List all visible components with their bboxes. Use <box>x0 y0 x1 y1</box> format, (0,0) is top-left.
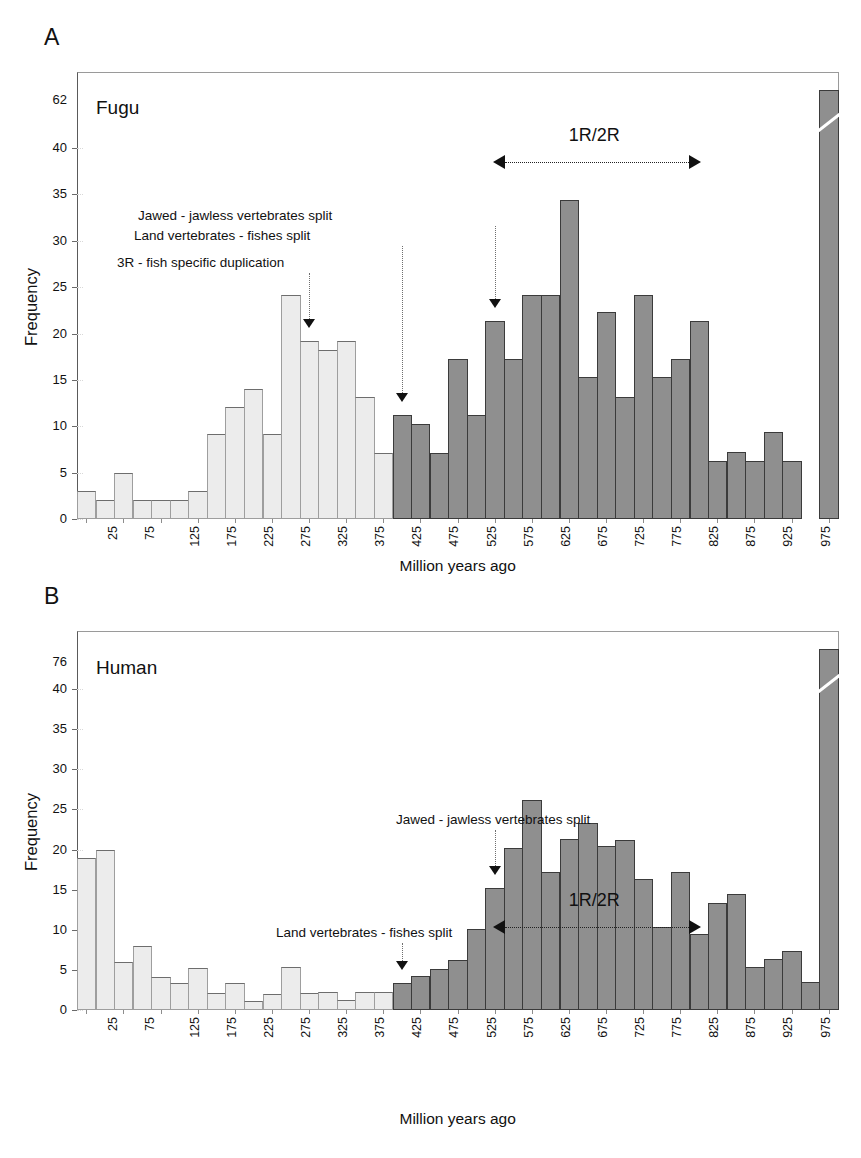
rr-right-arrow-icon <box>689 155 701 169</box>
y-tick-label: 5 <box>33 465 67 480</box>
histogram-bar <box>151 977 170 1010</box>
x-tick-label: 275 <box>299 526 313 547</box>
histogram-bar <box>708 903 727 1010</box>
y-tick-label: 20 <box>33 326 67 341</box>
panel-b-y-tick-top: 76 <box>33 654 67 669</box>
annotation-pointer-line <box>309 273 310 319</box>
x-tick-mark <box>569 1010 570 1014</box>
histogram-bar <box>263 994 282 1010</box>
histogram-bar <box>801 982 820 1010</box>
x-tick-label: 425 <box>410 526 424 547</box>
histogram-bar <box>114 473 133 519</box>
x-tick-mark <box>420 1010 421 1014</box>
x-tick-mark <box>383 519 384 523</box>
histogram-bar <box>77 491 96 519</box>
histogram-bar <box>207 434 226 519</box>
x-tick-mark <box>420 519 421 523</box>
x-tick-label: 75 <box>143 1017 157 1031</box>
x-tick-label: 925 <box>781 526 795 547</box>
panel-a-y-tick-top: 62 <box>33 92 67 107</box>
x-tick-mark <box>123 519 124 523</box>
histogram-bar <box>448 359 467 519</box>
x-tick-mark <box>829 1010 830 1014</box>
x-tick-label: 475 <box>447 526 461 547</box>
x-tick-mark <box>569 519 570 523</box>
histogram-bar <box>467 415 486 519</box>
histogram-bar <box>634 295 653 519</box>
panel-b-letter: B <box>44 583 59 610</box>
x-tick-mark <box>198 519 199 523</box>
y-grid-line <box>77 850 83 851</box>
histogram-bar <box>671 872 690 1010</box>
x-tick-mark <box>235 519 236 523</box>
x-tick-label: 675 <box>596 1017 610 1038</box>
y-tick-label: 35 <box>33 186 67 201</box>
y-tick-label: 0 <box>33 1002 67 1017</box>
histogram-bar <box>244 1001 263 1010</box>
y-tick-label: 35 <box>33 721 67 736</box>
x-tick-label: 225 <box>262 526 276 547</box>
panel-b-x-axis-label: Million years ago <box>400 1110 516 1128</box>
histogram-bar <box>133 946 152 1010</box>
histogram-bar <box>151 500 170 519</box>
y-grid-line <box>77 148 83 149</box>
histogram-bar <box>300 341 319 519</box>
histogram-bar <box>727 894 746 1010</box>
y-grid-line <box>77 473 83 474</box>
x-tick-label: 825 <box>707 526 721 547</box>
rr-label: 1R/2R <box>569 890 620 911</box>
histogram-bar <box>671 359 690 519</box>
x-tick-label: 525 <box>484 1017 498 1038</box>
x-tick-mark <box>86 519 87 523</box>
histogram-bar <box>374 992 393 1010</box>
x-tick-label: 625 <box>559 1017 573 1038</box>
x-tick-mark <box>754 519 755 523</box>
histogram-bar <box>727 452 746 519</box>
histogram-bar <box>819 90 838 519</box>
y-axis-break <box>70 108 86 130</box>
annotation-pointer-line <box>495 830 496 866</box>
histogram-bar <box>485 321 504 519</box>
x-tick-label: 975 <box>818 526 832 547</box>
histogram-bar <box>188 491 207 519</box>
histogram-bar <box>504 848 523 1010</box>
x-tick-mark <box>754 1010 755 1014</box>
histogram-bar <box>374 453 393 519</box>
histogram-bar <box>337 1000 356 1010</box>
histogram-bar <box>355 992 374 1010</box>
x-tick-label: 25 <box>106 1017 120 1031</box>
x-tick-label: 125 <box>187 1017 201 1038</box>
histogram-bar <box>541 295 560 519</box>
x-tick-mark <box>792 1010 793 1014</box>
panel-a-x-axis-label: Million years ago <box>400 557 516 575</box>
y-grid-line <box>77 380 83 381</box>
histogram-bar <box>782 951 801 1010</box>
x-tick-mark <box>272 1010 273 1014</box>
y-grid-line <box>77 729 83 730</box>
y-tick-label: 20 <box>33 842 67 857</box>
annotation-label: 3R - fish specific duplication <box>117 255 284 270</box>
y-tick-label: 15 <box>33 882 67 897</box>
x-tick-mark <box>123 1010 124 1014</box>
rr-span-line <box>505 162 689 163</box>
y-tick-label: 25 <box>33 801 67 816</box>
histogram-bar <box>188 968 207 1010</box>
histogram-bar <box>745 967 764 1010</box>
histogram-bar <box>225 983 244 1010</box>
histogram-bar <box>77 858 96 1010</box>
x-tick-label: 425 <box>410 1017 424 1038</box>
y-grid-line <box>77 1010 83 1011</box>
annotation-pointer-line <box>495 226 496 299</box>
histogram-bar <box>782 461 801 519</box>
histogram-bar <box>597 312 616 519</box>
rr-left-arrow-icon <box>493 155 505 169</box>
histogram-bar <box>615 840 634 1010</box>
x-tick-mark <box>346 519 347 523</box>
histogram-bar <box>281 295 300 519</box>
x-tick-label: 875 <box>744 526 758 547</box>
x-tick-label: 25 <box>106 526 120 540</box>
histogram-bar <box>764 959 783 1010</box>
histogram-bar <box>690 934 709 1010</box>
histogram-bar <box>708 461 727 519</box>
histogram-bar <box>355 397 374 519</box>
